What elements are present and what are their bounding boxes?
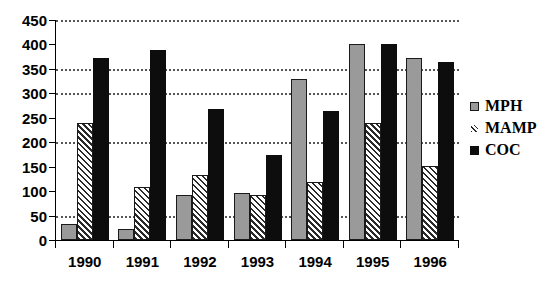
x-tick-label-1994: 1994 <box>286 252 344 276</box>
y-tick-label: 0 <box>0 233 47 248</box>
y-tick-label: 200 <box>0 135 47 150</box>
legend-swatch-coc-icon <box>470 146 479 155</box>
bar-coc-1990 <box>93 58 109 240</box>
y-tick-label: 50 <box>0 208 47 223</box>
bar-group-1995 <box>344 20 402 240</box>
x-tick-mark <box>458 240 459 248</box>
x-tick-mark <box>113 240 114 248</box>
y-tick-label: 450 <box>0 13 47 28</box>
y-tick-label: 250 <box>0 110 47 125</box>
x-tick-label-1991: 1991 <box>114 252 172 276</box>
legend-swatch-mamp-icon <box>470 124 479 133</box>
bar-mph-1995 <box>349 44 365 240</box>
bar-mamp-1994 <box>307 182 323 240</box>
y-tick-label: 150 <box>0 159 47 174</box>
bar-coc-1993 <box>266 155 282 240</box>
y-tick-label: 300 <box>0 86 47 101</box>
x-tick-label-1996: 1996 <box>401 252 459 276</box>
x-tick-label-1995: 1995 <box>344 252 402 276</box>
y-tick-label: 400 <box>0 37 47 52</box>
bar-coc-1994 <box>323 111 339 240</box>
legend-label: COC <box>485 142 521 158</box>
y-tick-label: 100 <box>0 184 47 199</box>
bar-mamp-1993 <box>250 195 266 240</box>
x-tick-mark <box>228 240 229 248</box>
x-tick-label-1990: 1990 <box>56 252 114 276</box>
bar-mph-1996 <box>406 58 422 240</box>
bar-groups <box>56 20 459 240</box>
bar-mph-1993 <box>234 193 250 240</box>
legend-label: MAMP <box>485 120 537 136</box>
bar-chart: 050100150200250300350400450 199019911992… <box>0 0 545 287</box>
x-axis-labels: 1990199119921993199419951996 <box>56 252 459 276</box>
bar-group-1992 <box>171 20 229 240</box>
bar-mamp-1995 <box>365 123 381 240</box>
plot-area <box>56 20 459 240</box>
x-axis-ticks <box>55 240 459 248</box>
bar-mamp-1992 <box>192 175 208 240</box>
x-tick-mark <box>400 240 401 248</box>
bar-group-1990 <box>56 20 114 240</box>
bar-mamp-1991 <box>134 187 150 240</box>
bar-group-1996 <box>401 20 459 240</box>
x-tick-mark <box>343 240 344 248</box>
x-tick-label-1992: 1992 <box>171 252 229 276</box>
bar-group-1994 <box>286 20 344 240</box>
bar-group-1993 <box>229 20 287 240</box>
bar-coc-1992 <box>208 109 224 240</box>
y-tick-label: 350 <box>0 61 47 76</box>
legend-item-coc[interactable]: COC <box>470 139 542 161</box>
legend-label: MPH <box>485 98 522 114</box>
x-tick-mark <box>285 240 286 248</box>
y-axis: 050100150200250300350400450 <box>0 0 47 240</box>
legend-swatch-mph-icon <box>470 102 479 111</box>
legend: MPHMAMPCOC <box>470 95 542 161</box>
x-tick-mark <box>170 240 171 248</box>
x-tick-label-1993: 1993 <box>229 252 287 276</box>
bar-group-1991 <box>114 20 172 240</box>
legend-item-mamp[interactable]: MAMP <box>470 117 542 139</box>
bar-mph-1994 <box>291 79 307 240</box>
bar-coc-1996 <box>438 62 454 240</box>
bar-mph-1990 <box>61 224 77 240</box>
x-tick-mark <box>55 240 56 248</box>
bar-coc-1995 <box>381 44 397 240</box>
bar-mph-1991 <box>118 229 134 240</box>
legend-item-mph[interactable]: MPH <box>470 95 542 117</box>
bar-mamp-1996 <box>422 166 438 240</box>
bar-mph-1992 <box>176 195 192 240</box>
bar-coc-1991 <box>150 50 166 240</box>
bar-mamp-1990 <box>77 123 93 240</box>
